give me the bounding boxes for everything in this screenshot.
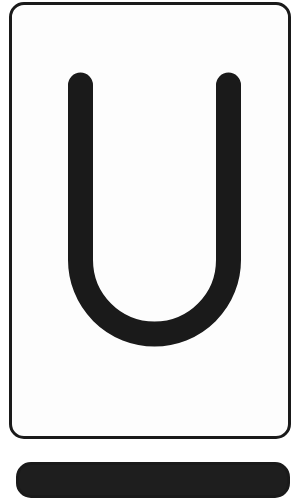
next-flashcard-edge[interactable] [16,462,290,498]
